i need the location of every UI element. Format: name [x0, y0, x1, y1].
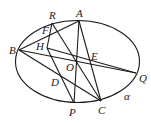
plane-label: α — [124, 90, 130, 102]
point-label-D: D — [50, 76, 59, 88]
point-label-F: F — [41, 24, 49, 36]
line-segments — [19, 21, 136, 103]
point-label-A: A — [75, 7, 83, 19]
diagram-canvas: ARFBHEOQDPC α — [0, 0, 151, 123]
segment-RC — [52, 23, 101, 101]
point-label-R: R — [48, 9, 56, 21]
point-label-C: C — [98, 104, 106, 116]
point-label-P: P — [68, 106, 76, 118]
point-label-Q: Q — [139, 72, 147, 84]
point-label-B: B — [9, 44, 16, 56]
geometry-diagram: ARFBHEOQDPC α — [0, 0, 151, 123]
point-label-H: H — [35, 40, 45, 52]
point-label-E: E — [90, 50, 98, 62]
point-label-O: O — [66, 61, 74, 73]
